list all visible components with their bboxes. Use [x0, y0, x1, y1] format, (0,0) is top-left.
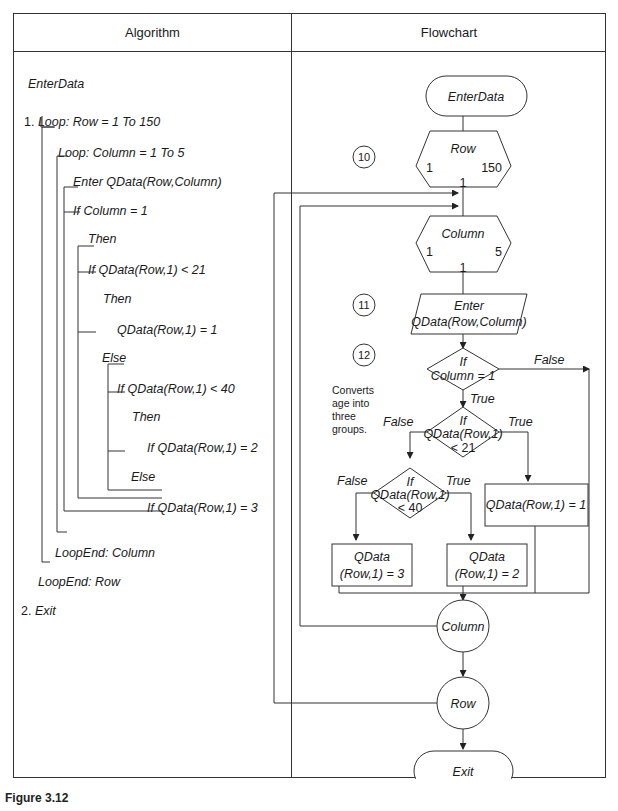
column-loop-label: Column [441, 227, 484, 241]
decision2-true-label: True [508, 415, 533, 429]
decision1-false-label: False [534, 353, 565, 367]
figure-caption: Figure 3.12 [5, 791, 68, 805]
decision3-line3: < 40 [398, 501, 423, 515]
decision2-line3: < 21 [451, 441, 476, 455]
column-end-label: Column [441, 620, 484, 634]
row-loop-start: 1 [426, 161, 433, 175]
decision2-false-label: False [383, 415, 414, 429]
process2-line1: QData [469, 550, 505, 564]
input-line2: QData(Row,Column) [411, 315, 526, 329]
decision1-true-label: True [470, 392, 495, 406]
note-line: three [332, 410, 356, 422]
row-loop-end: 150 [481, 161, 502, 175]
column-loop-step: 1 [460, 261, 467, 275]
exit-label: Exit [453, 765, 474, 779]
column-loop-start: 1 [426, 245, 433, 259]
step-marker-10-label: 10 [358, 151, 370, 163]
note-line: age into [332, 397, 370, 409]
row-end-label: Row [450, 697, 476, 711]
algorithm-flowchart-table: Algorithm Flowchart EnterData 1. Loop: R… [13, 13, 606, 778]
decision3-false-label: False [337, 474, 368, 488]
decision2-line2: QData(Row,1) [423, 427, 502, 441]
step-marker-12-label: 12 [358, 349, 370, 361]
process2-line2: (Row,1) = 2 [455, 567, 519, 581]
note-line: groups. [332, 423, 367, 435]
start-label: EnterData [448, 90, 504, 104]
decision3-true-label: True [446, 474, 471, 488]
input-line1: Enter [454, 299, 485, 313]
row-loop-label: Row [450, 142, 476, 156]
column-loop-end: 5 [495, 245, 502, 259]
process3-line2: (Row,1) = 3 [340, 567, 404, 581]
decision3-line2: QData(Row,1) [370, 488, 449, 502]
flowchart: EnterData Row 1 150 1 Column 1 5 1 Enter… [14, 14, 607, 779]
process1-label: QData(Row,1) = 1 [486, 498, 586, 512]
process3-line1: QData [354, 550, 390, 564]
row-loop-step: 1 [460, 176, 467, 190]
note-line: Converts [332, 384, 374, 396]
decision1-line2: Column = 1 [431, 369, 495, 383]
step-marker-11-label: 11 [358, 299, 369, 311]
